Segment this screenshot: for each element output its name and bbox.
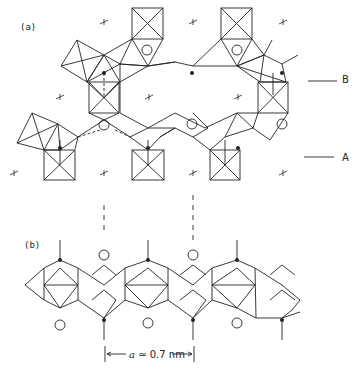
- crystal-structure-diagram: [0, 0, 357, 372]
- panel-a-structure: [17, 8, 298, 180]
- panel-b-structure: [25, 240, 300, 340]
- symmetry-markers: [10, 19, 287, 176]
- panel-b-atoms: [58, 258, 284, 322]
- scale-bar: [105, 346, 194, 362]
